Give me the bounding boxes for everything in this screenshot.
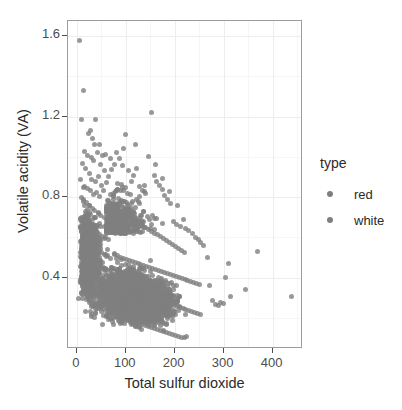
data-point (92, 142, 97, 147)
legend-key-icon (320, 184, 340, 204)
gridline-major-vertical (224, 21, 225, 347)
data-point (226, 261, 231, 266)
gridline-minor-vertical (248, 21, 249, 347)
data-point (160, 187, 165, 192)
legend-item-label: red (354, 187, 373, 202)
data-point (114, 150, 119, 155)
data-point (168, 201, 173, 206)
data-point (107, 268, 112, 273)
data-point (160, 176, 165, 181)
legend-item-label: white (354, 213, 384, 228)
x-tick-mark (174, 348, 175, 353)
data-point (90, 136, 95, 141)
y-tick-label: 0.4 (42, 268, 60, 283)
data-point (153, 162, 158, 167)
data-point (108, 156, 113, 161)
gridline-major-horizontal (68, 36, 301, 37)
data-point (152, 173, 157, 178)
data-point (79, 117, 84, 122)
data-point (81, 88, 86, 93)
legend-item-white[interactable]: white (320, 207, 398, 233)
data-point (118, 321, 123, 326)
data-point (163, 278, 168, 283)
legend-dot-icon (327, 191, 333, 197)
data-point (148, 258, 153, 263)
data-point (102, 168, 107, 173)
y-tick-label: 0.8 (42, 187, 60, 202)
data-point (97, 221, 102, 226)
legend-key-icon (320, 210, 340, 230)
data-point (255, 249, 260, 254)
data-point (289, 294, 294, 299)
y-axis-title: Volatile acidity (VA) (15, 71, 31, 271)
data-point (97, 194, 102, 199)
data-point (115, 260, 120, 265)
data-point (99, 183, 104, 188)
data-point (126, 272, 131, 277)
data-point (93, 179, 98, 184)
data-point (167, 189, 172, 194)
data-point (197, 282, 202, 287)
y-tick-mark (62, 35, 67, 36)
data-point (91, 158, 96, 163)
data-point (109, 167, 114, 172)
data-point (129, 179, 134, 184)
x-tick-label: 300 (203, 355, 243, 370)
data-point (131, 173, 136, 178)
data-point (150, 213, 155, 218)
data-point (117, 303, 122, 308)
data-point (119, 217, 124, 222)
data-point (78, 177, 83, 182)
data-point (106, 237, 111, 242)
data-point (145, 214, 150, 219)
data-point (198, 312, 203, 317)
data-point (117, 156, 122, 161)
data-point (111, 223, 116, 228)
data-point (101, 188, 106, 193)
data-point (111, 194, 116, 199)
gridline-minor-vertical (297, 21, 298, 347)
legend-title: type (320, 155, 398, 171)
data-point (111, 322, 116, 327)
x-tick-mark (76, 348, 77, 353)
data-point (134, 166, 139, 171)
x-tick-label: 400 (252, 355, 292, 370)
data-point (147, 281, 152, 286)
scatter-plot-figure: 01002003004000.40.81.21.6 Total sulfur d… (0, 0, 402, 410)
y-tick-label: 1.6 (42, 26, 60, 41)
data-point (207, 283, 212, 288)
y-tick-mark (62, 116, 67, 117)
data-point (141, 209, 146, 214)
data-point (92, 315, 97, 320)
data-point (178, 224, 183, 229)
x-tick-label: 0 (56, 355, 96, 370)
gridline-major-vertical (273, 21, 274, 347)
data-point (118, 188, 123, 193)
data-point (126, 168, 131, 173)
data-point (108, 311, 113, 316)
legend-item-red[interactable]: red (320, 181, 398, 207)
y-tick-mark (62, 196, 67, 197)
data-point (184, 334, 189, 339)
data-point (105, 198, 110, 203)
data-point (170, 318, 175, 323)
gridline-major-horizontal (68, 197, 301, 198)
data-point (103, 308, 108, 313)
data-point (223, 275, 228, 280)
data-point (136, 307, 141, 312)
x-axis-title: Total sulfur dioxide (67, 375, 302, 391)
data-point (150, 319, 155, 324)
x-tick-mark (272, 348, 273, 353)
gridline-major-horizontal (68, 117, 301, 118)
data-point (136, 199, 141, 204)
data-point (158, 308, 163, 313)
data-point (96, 300, 101, 305)
data-point (125, 267, 130, 272)
data-point (124, 299, 129, 304)
data-point (77, 38, 82, 43)
legend-dot-icon (327, 217, 333, 223)
data-point (108, 282, 113, 287)
y-tick-label: 1.2 (42, 107, 60, 122)
data-point (100, 322, 105, 327)
data-point (175, 203, 180, 208)
